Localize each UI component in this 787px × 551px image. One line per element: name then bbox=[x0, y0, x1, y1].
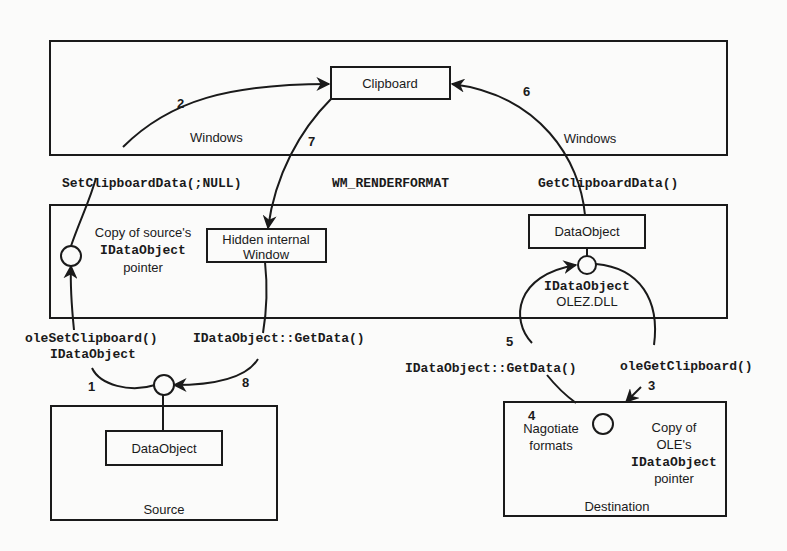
windows-label: Windows bbox=[190, 130, 243, 145]
get-clipboard-data-label: GetClipboardData() bbox=[538, 176, 678, 191]
step-5-label: 5 bbox=[506, 334, 513, 349]
step-7-label: 7 bbox=[308, 134, 315, 149]
hidden-window-label-1: Hidden internal bbox=[222, 232, 310, 247]
step-6-label: 6 bbox=[523, 84, 530, 99]
source-dataobject-node: DataObject bbox=[106, 375, 222, 465]
step-1-label: 1 bbox=[88, 379, 95, 394]
ole-dll-label: OLEZ.DLL bbox=[556, 294, 617, 309]
dest-copy-label-2: OLE's bbox=[657, 437, 692, 452]
step-8-label: 8 bbox=[242, 375, 249, 390]
step-2-label: 2 bbox=[177, 96, 184, 111]
dest-copy-label-4: pointer bbox=[654, 471, 694, 486]
step-6-arrow bbox=[452, 84, 585, 215]
clipboard-label: Clipboard bbox=[362, 76, 418, 91]
source-idataobject-port-icon bbox=[154, 375, 174, 395]
ole-interface-label: IDataObject bbox=[544, 279, 630, 294]
get-data-source-label: IDataObject::GetData() bbox=[193, 331, 365, 346]
set-clipboard-data-label: SetClipboardData(;NULL) bbox=[62, 176, 241, 191]
ole-set-clipboard-label-1: oleSetClipboard() bbox=[25, 331, 158, 346]
step-1-curve bbox=[92, 368, 155, 388]
step-8-curve-a bbox=[263, 262, 266, 333]
negotiate-label-2: formats bbox=[529, 438, 573, 453]
source-pointer-copy-port-icon bbox=[61, 246, 81, 266]
destination-label: Destination bbox=[584, 499, 649, 514]
source-label: Source bbox=[143, 502, 184, 517]
source-dataobject-label: DataObject bbox=[131, 441, 196, 456]
step-3-arrow bbox=[626, 387, 641, 402]
ole-clipboard-diagram: Windows Source Destination Clipboard Win… bbox=[0, 0, 787, 551]
windows-region-label: Windows bbox=[564, 131, 617, 146]
dest-copy-label-3: IDataObject bbox=[631, 455, 717, 470]
ole-idataobject-port-icon bbox=[578, 256, 596, 274]
negotiate-label-1: Nagotiate bbox=[523, 421, 579, 436]
step-3-label: 3 bbox=[648, 378, 655, 393]
source-copy-label-3: pointer bbox=[123, 260, 163, 275]
hidden-window-label-2: Window bbox=[243, 247, 290, 262]
destination-pointer-port-icon bbox=[593, 414, 613, 434]
get-data-dest-label: IDataObject::GetData() bbox=[405, 361, 577, 376]
step-7-arrow bbox=[268, 99, 331, 228]
source-copy-label-1: Copy of source's bbox=[95, 225, 192, 240]
step-1-arrow bbox=[71, 266, 74, 330]
ole-dataobject-node: DataObject IDataObject OLEZ.DLL bbox=[529, 215, 645, 309]
clipboard-node: Clipboard bbox=[331, 67, 450, 99]
wm-renderformat-label: WM_RENDERFORMAT bbox=[332, 176, 449, 191]
step-5-curve-b bbox=[547, 375, 576, 403]
ole-dataobject-label: DataObject bbox=[554, 224, 619, 239]
dest-copy-label-1: Copy of bbox=[652, 420, 697, 435]
ole-get-clipboard-label: oleGetClipboard() bbox=[620, 359, 753, 374]
source-copy-label-2: IDataObject bbox=[100, 243, 186, 258]
ole-set-clipboard-label-2: IDataObject bbox=[50, 347, 136, 362]
hidden-window-node: Hidden internal Window bbox=[207, 229, 326, 262]
